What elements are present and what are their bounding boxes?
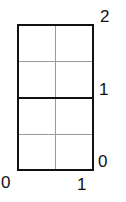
label-y-one: 1: [99, 81, 108, 98]
label-x-origin: 0: [1, 174, 10, 191]
label-x-one: 1: [77, 176, 86, 193]
grid-diagram: [0, 0, 126, 202]
label-y-zero: 0: [98, 153, 107, 170]
label-y-two: 2: [100, 8, 109, 25]
